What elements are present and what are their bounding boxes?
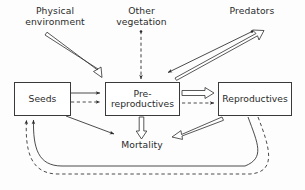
label-other-vegetation-line2: vegetation [113, 17, 170, 28]
edge-prereproductives-to-reproductives-hollow [182, 88, 214, 99]
label-predators-line1: Predators [224, 6, 280, 17]
label-mortality-line1: Mortality [116, 140, 168, 151]
node-seeds[interactable]: Seeds [14, 82, 71, 116]
node-seeds-label: Seeds [15, 94, 70, 105]
label-mortality: Mortality [116, 140, 168, 151]
node-prereproductives[interactable]: Pre- reproductives [105, 82, 180, 116]
edge-physical-env-to-prereproductives [45, 32, 102, 77]
edge-seeds-to-mortality [66, 116, 114, 134]
node-prereproductives-label-line2: reproductives [106, 99, 179, 110]
label-physical-environment-line1: Physical [22, 6, 88, 17]
edge-predators-to-prereproductives [168, 30, 253, 72]
node-reproductives-label: Reproductives [219, 94, 291, 105]
edge-other-vegetation-to-prereproductives [140, 30, 143, 79]
diagram-canvas: Seeds Pre- reproductives Reproductives P… [0, 0, 305, 190]
label-other-vegetation: Other vegetation [113, 6, 170, 27]
label-physical-environment-line2: environment [22, 17, 88, 28]
label-physical-environment: Physical environment [22, 6, 88, 27]
label-other-vegetation-line1: Other [113, 6, 170, 17]
node-reproductives[interactable]: Reproductives [218, 82, 292, 116]
edge-prereproductives-to-mortality [136, 117, 147, 139]
label-predators: Predators [224, 6, 280, 17]
edge-reproductives-to-mortality [172, 117, 224, 139]
edge-prereproductives-to-predators [175, 30, 264, 80]
